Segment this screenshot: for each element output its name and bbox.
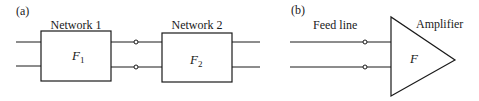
feed-line-title: Feed line bbox=[313, 18, 357, 32]
amplifier-block: Amplifier F bbox=[391, 17, 463, 96]
panel-a-label: (a) bbox=[16, 4, 29, 18]
panel-b-label: (b) bbox=[291, 3, 305, 17]
terminal-node-bottom bbox=[134, 65, 138, 69]
network-2-block: Network 2 F2 bbox=[162, 18, 232, 82]
panel-b: (b) Feed line Amplifier F bbox=[290, 3, 463, 96]
terminal-node-top bbox=[134, 40, 138, 44]
diagram-canvas: (a) Network 1 F1 Network 2 F2 (b) Feed l… bbox=[0, 0, 479, 101]
network-2-symbol: F2 bbox=[189, 52, 202, 69]
panel-a: (a) Network 1 F1 Network 2 F2 bbox=[16, 4, 260, 82]
network-1-symbol: F1 bbox=[71, 48, 84, 65]
amplifier-title: Amplifier bbox=[416, 17, 463, 31]
network-1-title: Network 1 bbox=[51, 18, 102, 32]
network-2-title: Network 2 bbox=[172, 18, 223, 32]
feed-terminal-top bbox=[363, 40, 367, 44]
network-1-block: Network 1 F1 bbox=[41, 18, 111, 81]
feed-terminal-bottom bbox=[363, 65, 367, 69]
amplifier-symbol: F bbox=[409, 51, 419, 66]
